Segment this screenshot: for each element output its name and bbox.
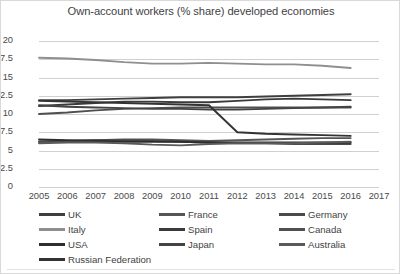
series-lines (39, 41, 379, 187)
plot-wrapper: 02.557.51012.51517.520 20052006200720082… (1, 23, 400, 201)
y-axis-tick-label: 17.5 (0, 53, 13, 63)
legend-swatch-icon (39, 228, 65, 231)
x-axis-tick-label: 2005 (29, 191, 50, 201)
x-axis-tick-label: 2016 (340, 191, 361, 201)
legend-divider (7, 269, 395, 270)
legend-label: Russian Federation (68, 254, 151, 265)
x-axis-tick-label: 2007 (85, 191, 106, 201)
legend-swatch-icon (279, 228, 305, 231)
legend-label: USA (68, 239, 88, 250)
legend-item[interactable]: Russian Federation (39, 254, 151, 265)
x-axis-tick-label: 2009 (142, 191, 163, 201)
y-axis-tick-label: 12.5 (0, 90, 13, 100)
legend-item[interactable]: Germany (279, 209, 347, 220)
legend-item[interactable]: Canada (279, 224, 342, 235)
legend-item[interactable]: France (159, 209, 218, 220)
y-axis-tick-label: 20 (0, 35, 13, 45)
gridline (39, 187, 379, 188)
legend-label: Spain (188, 224, 213, 235)
legend-swatch-icon (159, 243, 185, 246)
legend-label: France (188, 209, 218, 220)
legend-label: Italy (68, 224, 86, 235)
legend-swatch-icon (279, 213, 305, 216)
x-axis-tick-label: 2013 (255, 191, 276, 201)
legend-label: Australia (308, 239, 345, 250)
y-axis-tick-label: 0 (0, 181, 13, 191)
legend-item[interactable]: Italy (39, 224, 86, 235)
y-axis-tick-label: 5 (0, 145, 13, 155)
x-axis-tick-label: 2015 (312, 191, 333, 201)
legend-label: Germany (308, 209, 347, 220)
chart-legend: UKFranceGermanyItalySpainCanadaUSAJapanA… (1, 207, 400, 273)
legend-item[interactable]: Spain (159, 224, 213, 235)
legend-label: Canada (308, 224, 342, 235)
y-axis-tick-label: 15 (0, 72, 13, 82)
legend-item[interactable]: Japan (159, 239, 214, 250)
legend-swatch-icon (159, 213, 185, 216)
legend-label: UK (68, 209, 81, 220)
x-axis-tick-label: 2012 (227, 191, 248, 201)
chart-card: Own-account workers (% share) developed … (0, 0, 400, 274)
y-axis-tick-label: 10 (0, 108, 13, 118)
x-axis-tick-label: 2010 (170, 191, 191, 201)
legend-swatch-icon (39, 213, 65, 216)
legend-item[interactable]: UK (39, 209, 81, 220)
series-line (39, 101, 351, 136)
y-axis-tick-label: 2.5 (0, 163, 13, 173)
legend-swatch-icon (159, 228, 185, 231)
legend-swatch-icon (279, 243, 305, 246)
x-axis-tick-label: 2017 (369, 191, 390, 201)
plot-area: 02.557.51012.51517.520 20052006200720082… (39, 41, 379, 187)
x-axis-tick-label: 2006 (57, 191, 78, 201)
x-axis-tick-label: 2008 (114, 191, 135, 201)
legend-swatch-icon (39, 243, 65, 246)
legend-item[interactable]: USA (39, 239, 88, 250)
x-axis-tick-label: 2011 (199, 191, 219, 201)
legend-label: Japan (188, 239, 214, 250)
y-axis-tick-label: 7.5 (0, 126, 13, 136)
chart-title: Own-account workers (% share) developed … (1, 5, 400, 17)
series-line (39, 58, 351, 68)
x-axis-tick-label: 2014 (284, 191, 305, 201)
legend-swatch-icon (39, 258, 65, 261)
legend-item[interactable]: Australia (279, 239, 345, 250)
